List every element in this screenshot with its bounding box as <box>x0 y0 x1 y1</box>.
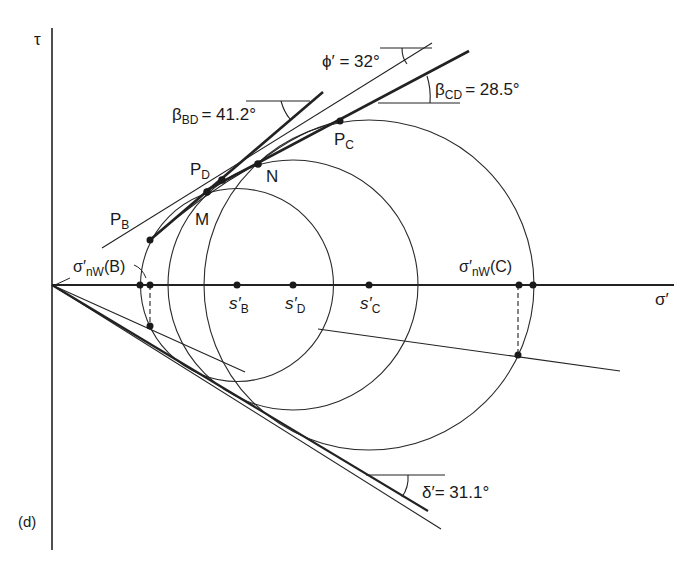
tau-axis-label: τ <box>34 30 41 49</box>
point-PC <box>337 118 344 125</box>
label-N: N <box>266 167 278 186</box>
points <box>137 118 537 359</box>
point-lower-C <box>515 352 522 359</box>
delta-line-thin <box>52 285 441 529</box>
point-sD <box>290 282 297 289</box>
point-lower-B <box>147 323 154 330</box>
point-sigma-nw-C-1 <box>516 282 523 289</box>
panel-label: (d) <box>18 513 36 530</box>
point-M <box>203 188 211 196</box>
point-sB <box>234 282 241 289</box>
lower-lines <box>52 285 620 529</box>
label-sigma-nw-B: σ′nW(B) <box>73 258 125 279</box>
phi-angle-label: ϕ′ = 32° <box>322 52 380 71</box>
point-N <box>254 160 262 168</box>
label-sC: s′C <box>360 294 381 316</box>
beta-cd-label: βCD= 28.5° <box>435 80 520 102</box>
label-sD: s′D <box>285 294 306 316</box>
point-sigma-nw-C-2 <box>530 282 537 289</box>
label-sigma-nw-C: σ′nW(C) <box>459 258 512 279</box>
label-PB: PB <box>110 210 129 232</box>
label-sB: s′B <box>229 294 249 316</box>
delta-angle-label: δ′= 31.1° <box>422 483 489 502</box>
point-sigma-nw-B-2 <box>147 282 154 289</box>
mohr-circle-diagram: τ σ′ (d) ϕ′ = 32° βBD= 41.2° βCD= 28.5° … <box>0 0 696 570</box>
phi-envelope-line <box>102 43 432 248</box>
sigma-axis-label: σ′ <box>655 290 669 309</box>
label-PC: PC <box>334 130 354 152</box>
delta-line-thick <box>52 285 428 511</box>
angle-markers <box>246 48 460 497</box>
point-PB <box>147 237 154 244</box>
point-sC <box>366 282 373 289</box>
beta-bd-label: βBD= 41.2° <box>172 105 256 127</box>
dashed-projections <box>150 285 518 355</box>
label-PD: PD <box>190 160 210 182</box>
point-PD <box>218 176 226 184</box>
point-sigma-nw-B-1 <box>137 282 144 289</box>
pole-line-C <box>318 329 620 371</box>
label-M: M <box>195 210 209 229</box>
labels: τ σ′ (d) ϕ′ = 32° βBD= 41.2° βCD= 28.5° … <box>18 30 669 530</box>
upper-lines <box>102 43 469 248</box>
